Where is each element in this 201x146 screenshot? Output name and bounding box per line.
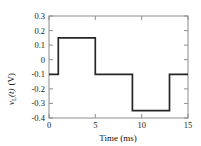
y-tick-label: -0.3 bbox=[32, 98, 45, 108]
x-axis-title: Time (ms) bbox=[99, 133, 136, 143]
x-tick-label: 10 bbox=[137, 120, 146, 130]
waveform-chart: 0.3 0.2 0.1 0 -0.1 -0.2 -0.3 -0.4 0 5 10… bbox=[0, 0, 201, 146]
figure-container: 0.3 0.2 0.1 0 -0.1 -0.2 -0.3 -0.4 0 5 10… bbox=[0, 0, 201, 146]
chart-background bbox=[0, 0, 201, 146]
y-tick-label: 0.2 bbox=[34, 26, 45, 36]
y-tick-label: -0.2 bbox=[32, 84, 45, 94]
y-tick-label: -0.1 bbox=[32, 69, 45, 79]
x-tick-label: 15 bbox=[184, 120, 193, 130]
y-tick-label: -0.4 bbox=[32, 113, 46, 123]
y-tick-label: 0.3 bbox=[34, 11, 45, 21]
y-axis-title-arg: (t) bbox=[6, 89, 16, 98]
y-tick-label: 0 bbox=[41, 55, 45, 65]
y-axis-title-unit: (V) bbox=[6, 73, 16, 86]
x-tick-label: 5 bbox=[93, 120, 97, 130]
y-tick-label: 0.1 bbox=[34, 40, 45, 50]
x-tick-label: 0 bbox=[47, 120, 51, 130]
